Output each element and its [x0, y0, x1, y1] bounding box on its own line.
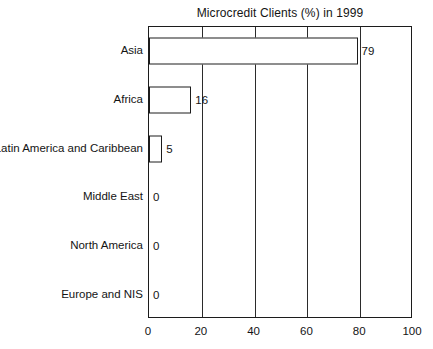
category-label-row: Africa: [0, 75, 143, 124]
bar: [149, 38, 358, 65]
category-label-row: North America: [0, 221, 143, 270]
bar-row: 0: [149, 173, 411, 222]
bar-row: 79: [149, 27, 411, 76]
plot-area: 79165000: [148, 26, 412, 318]
category-label-row: Middle East: [0, 172, 143, 221]
category-axis-labels: AsiaAfricaLatin America and CaribbeanMid…: [0, 26, 143, 318]
bar-value-label: 0: [149, 239, 159, 252]
chart-title: Microcredit Clients (%) in 1999: [148, 6, 412, 20]
category-label-row: Asia: [0, 26, 143, 75]
bar-value-label: 5: [162, 142, 172, 155]
category-label: Africa: [114, 92, 143, 105]
bar: [149, 86, 191, 113]
bar-row: 0: [149, 222, 411, 271]
x-tick-label: 40: [247, 325, 260, 338]
category-label-row: Europe and NIS: [0, 269, 143, 318]
x-axis: 020406080100: [148, 318, 412, 344]
x-tick-label: 60: [300, 325, 313, 338]
bar-value-label: 0: [149, 288, 159, 301]
bar-value-label: 79: [358, 45, 375, 58]
category-label-row: Latin America and Caribbean: [0, 123, 143, 172]
x-tick-label: 100: [402, 325, 421, 338]
bar-row: 16: [149, 76, 411, 125]
category-label: Middle East: [83, 190, 143, 203]
category-label: Asia: [121, 44, 143, 57]
category-label: North America: [70, 238, 143, 251]
bar-row: 0: [149, 270, 411, 319]
bar-chart: Microcredit Clients (%) in 1999 AsiaAfri…: [0, 0, 433, 349]
bar-value-label: 16: [191, 93, 208, 106]
x-tick-label: 0: [145, 325, 151, 338]
bar: [149, 135, 162, 162]
bar-row: 5: [149, 124, 411, 173]
x-tick-label: 80: [353, 325, 366, 338]
category-label: Europe and NIS: [61, 287, 143, 300]
bar-value-label: 0: [149, 191, 159, 204]
x-tick-label: 20: [194, 325, 207, 338]
category-label: Latin America and Caribbean: [0, 141, 143, 154]
